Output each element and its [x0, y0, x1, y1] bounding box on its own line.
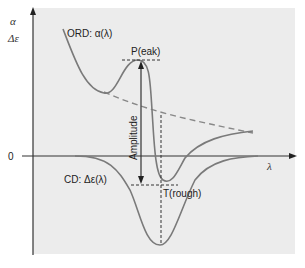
ord-label: ORD: α(λ)	[67, 28, 112, 39]
cd-label: CD: Δε(λ)	[64, 174, 107, 185]
y-axis-label-alpha: α	[10, 15, 16, 27]
x-axis-label-lambda: λ	[266, 160, 272, 172]
amplitude-label: Amplitude	[128, 115, 139, 160]
plot-panel	[33, 8, 295, 254]
cotton-effect-diagram: α Δε 0 λ ORD: α(λ) CD: Δε(λ) P(eak) T(ro…	[0, 0, 305, 268]
trough-label: T(rough)	[163, 188, 201, 199]
peak-label: P(eak)	[131, 46, 160, 57]
y-axis-label-delta-epsilon: Δε	[7, 32, 19, 44]
zero-label: 0	[8, 151, 14, 162]
